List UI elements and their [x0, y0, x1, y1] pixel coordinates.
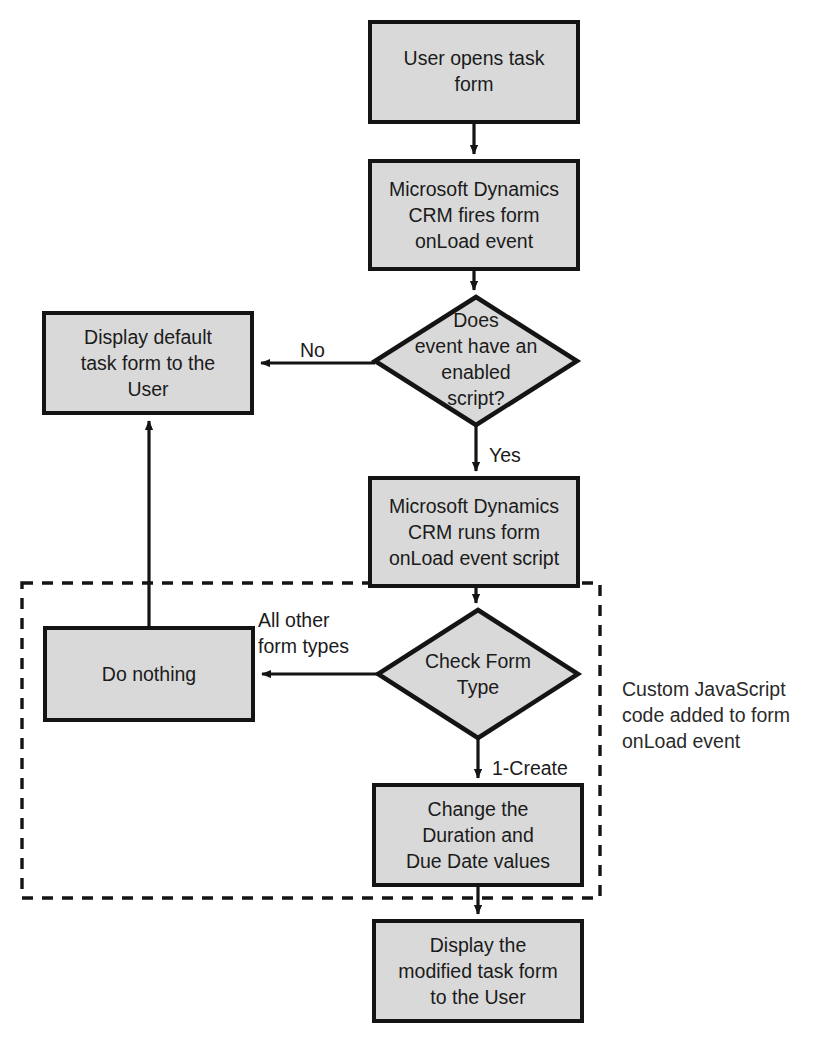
- node-does-event-have-enabled-script-label-4: script?: [447, 387, 505, 409]
- node-display-modified-task-form-label-3: to the User: [430, 986, 526, 1008]
- node-change-duration-due-date-label: Change the: [428, 798, 529, 820]
- node-does-event-have-enabled-script-label-2: event have an: [415, 335, 538, 357]
- node-change-duration-due-date-label-3: Due Date values: [406, 850, 550, 872]
- node-change-duration-due-date-label-2: Duration and: [422, 824, 534, 846]
- node-user-opens-task-form-label-2: form: [455, 73, 494, 95]
- node-does-event-have-enabled-script-label: Does: [453, 309, 499, 331]
- node-display-default-task-form-label: Display default: [84, 326, 212, 348]
- custom-javascript-annotation-line-1: Custom JavaScript: [622, 678, 786, 700]
- edge-label-yes: Yes: [489, 444, 521, 466]
- custom-javascript-annotation-line-3: onLoad event: [622, 730, 741, 752]
- node-user-opens-task-form-label: User opens task: [404, 47, 545, 69]
- node-crm-runs-form-onload-event-script-label-2: CRM runs form: [408, 521, 540, 543]
- edge-label-all-other-form-types: All other: [258, 609, 330, 631]
- node-crm-fires-form-onload-event-label: Microsoft Dynamics: [389, 178, 559, 200]
- node-do-nothing-label: Do nothing: [102, 663, 196, 685]
- node-crm-runs-form-onload-event-script-label-3: onLoad event script: [389, 547, 560, 569]
- edge-label-1-create: 1-Create: [492, 757, 568, 779]
- node-check-form-type-label-2: Type: [457, 676, 499, 698]
- flowchart-svg: User opens task form Microsoft Dynamics …: [0, 0, 813, 1045]
- node-display-modified-task-form-label: Display the: [430, 934, 526, 956]
- node-user-opens-task-form[interactable]: [370, 22, 578, 122]
- custom-javascript-annotation-line-2: code added to form: [622, 704, 790, 726]
- node-crm-fires-form-onload-event-label-3: onLoad event: [415, 230, 534, 252]
- edge-label-no: No: [300, 339, 325, 361]
- node-does-event-have-enabled-script-label-3: enabled: [441, 361, 510, 383]
- node-crm-runs-form-onload-event-script-label: Microsoft Dynamics: [389, 495, 559, 517]
- edge-label-all-other-form-types-2: form types: [258, 635, 349, 657]
- node-crm-fires-form-onload-event-label-2: CRM fires form: [408, 204, 539, 226]
- node-check-form-type-label: Check Form: [425, 650, 531, 672]
- node-display-modified-task-form-label-2: modified task form: [398, 960, 557, 982]
- flowchart-canvas: User opens task form Microsoft Dynamics …: [0, 0, 813, 1045]
- node-display-default-task-form-label-3: User: [127, 378, 169, 400]
- node-display-default-task-form-label-2: task form to the: [81, 352, 215, 374]
- node-check-form-type[interactable]: [378, 610, 578, 738]
